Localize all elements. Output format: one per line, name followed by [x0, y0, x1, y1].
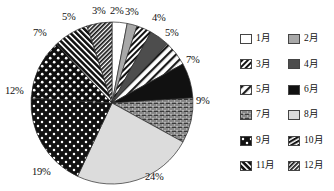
pie-slice-percent-label: 3% — [92, 6, 106, 17]
legend-item-label: 12月 — [304, 161, 324, 171]
legend-item-label: 11月 — [256, 161, 275, 171]
swatch-hatch-dense-icon — [240, 59, 252, 69]
pie-slice-percent-label: 7% — [186, 55, 200, 66]
legend-item[interactable]: 6月 — [288, 84, 334, 96]
swatch-hatch-dense2-icon — [288, 136, 300, 146]
legend-item-label: 3月 — [256, 60, 271, 70]
legend-item-label: 8月 — [304, 110, 319, 120]
legend-item[interactable]: 5月 — [240, 84, 286, 96]
legend-item[interactable]: 7月 — [240, 109, 286, 121]
legend-column-left: 1月3月5月7月9月11月 — [240, 33, 286, 185]
legend-item[interactable]: 11月 — [240, 160, 286, 172]
legend-item-label: 9月 — [256, 136, 271, 146]
legend-item-label: 5月 — [256, 85, 271, 95]
chart-legend: 1月3月5月7月9月11月 2月4月6月8月10月12月 — [240, 33, 334, 185]
pie-chart-figure: 3%2%3%4%5%7%9%24%19%12%7%5% 1月3月5月7月9月11… — [0, 0, 334, 191]
pie-slice-percent-label: 24% — [145, 172, 164, 183]
legend-item[interactable]: 1月 — [240, 33, 286, 45]
pie-slice-percent-label: 12% — [5, 86, 24, 97]
pie-slice-percent-label: 5% — [62, 12, 76, 23]
legend-item-label: 2月 — [304, 34, 319, 44]
pie-slice-percent-label: 2% — [110, 6, 124, 17]
legend-item[interactable]: 10月 — [288, 135, 334, 147]
legend-item-label: 4月 — [304, 60, 319, 70]
legend-item-label: 7月 — [256, 110, 271, 120]
legend-item-label: 6月 — [304, 85, 319, 95]
legend-item[interactable]: 9月 — [240, 135, 286, 147]
legend-item-label: 1月 — [256, 34, 271, 44]
pie-slice-percent-label: 19% — [32, 167, 51, 178]
pie-slice-percent-label: 4% — [152, 13, 166, 24]
swatch-confetti-icon — [240, 136, 252, 146]
swatch-lightgray-icon — [288, 110, 300, 120]
pie-slice-percent-label: 5% — [165, 28, 179, 39]
legend-item[interactable]: 12月 — [288, 160, 334, 172]
legend-item[interactable]: 8月 — [288, 109, 334, 121]
legend-column-right: 2月4月6月8月10月12月 — [288, 33, 334, 185]
swatch-white-icon — [240, 34, 252, 44]
swatch-hatch-tight-icon — [288, 161, 300, 171]
swatch-stripe-wide-icon — [240, 85, 252, 95]
pie-slice-percent-label: 7% — [33, 28, 47, 39]
swatch-darkgray-icon — [288, 59, 300, 69]
legend-item[interactable]: 3月 — [240, 58, 286, 70]
pie-slice-percent-label: 3% — [125, 7, 139, 18]
pie-slices — [31, 22, 193, 184]
swatch-black-icon — [288, 85, 300, 95]
legend-item-label: 10月 — [304, 136, 324, 146]
legend-item[interactable]: 4月 — [288, 58, 334, 70]
swatch-hatch-left-icon — [240, 161, 252, 171]
legend-item[interactable]: 2月 — [288, 33, 334, 45]
pie-slice-percent-label: 9% — [196, 96, 210, 107]
swatch-gray-icon — [288, 34, 300, 44]
swatch-brick-icon — [240, 110, 252, 120]
